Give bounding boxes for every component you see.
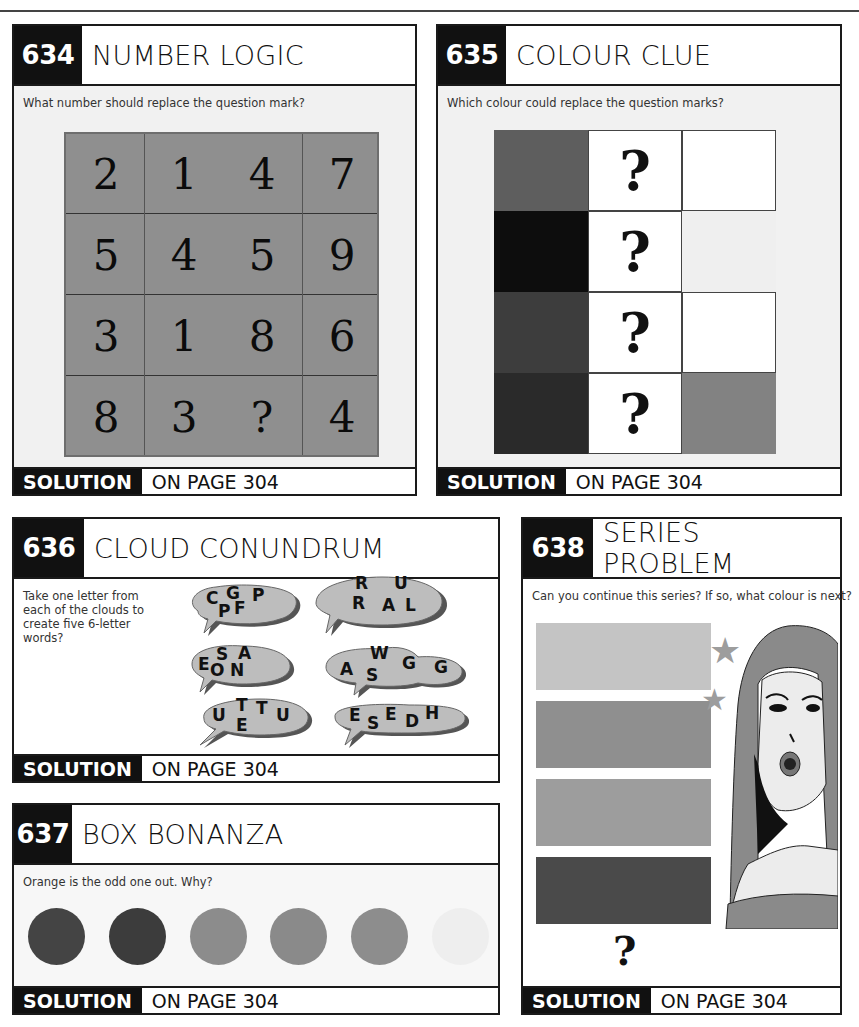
grid-cell: 4	[232, 134, 292, 214]
solution-label: SOLUTION	[14, 756, 142, 781]
colour-swatch	[494, 211, 588, 292]
colour-swatch	[682, 373, 776, 454]
grid-cell: 3	[154, 377, 214, 457]
unknown-swatch: ?	[588, 292, 682, 373]
grid-cell: 6	[312, 296, 372, 376]
colour-circle	[28, 908, 85, 965]
grid-cell: 2	[76, 134, 136, 214]
unknown-swatch: ?	[588, 130, 682, 211]
speech-cloud: R U R A L	[312, 575, 452, 637]
puzzle-prompt: Can you continue this series? If so, wha…	[532, 589, 852, 603]
puzzle-636-panel: 636 CLOUD CONUNDRUM Take one letter from…	[12, 517, 500, 783]
series-bar	[536, 701, 711, 768]
solution-bar: SOLUTION ON PAGE 304	[12, 467, 417, 496]
puzzle-title: CLOUD CONUNDRUM	[84, 519, 385, 577]
number-grid: 2 1 4 7 5 4 5 9 3 1 8 6 8 3 ? 4	[64, 132, 379, 457]
solution-bar: SOLUTION ON PAGE 304	[12, 986, 500, 1015]
page-top-rule	[0, 10, 859, 12]
puzzle-634-header: 634 NUMBER LOGIC	[14, 26, 415, 86]
puzzle-prompt: Take one letter from each of the clouds …	[23, 589, 158, 645]
speech-cloud: E S E D H	[329, 699, 474, 754]
unknown-swatch: ?	[588, 211, 682, 292]
colour-swatch	[682, 130, 776, 211]
solution-bar: SOLUTION ON PAGE 304	[12, 754, 500, 783]
grid-cell: 5	[232, 215, 292, 295]
solution-page: ON PAGE 304	[142, 469, 279, 494]
puzzle-638-panel: 638 SERIES PROBLEM Can you continue this…	[521, 517, 842, 1015]
solution-label: SOLUTION	[14, 988, 142, 1013]
grid-cell: 5	[76, 215, 136, 295]
series-bar	[536, 623, 711, 690]
speech-cloud: E S A O N	[186, 642, 298, 697]
grid-cell: 8	[232, 296, 292, 376]
speech-cloud: U T T U E	[194, 695, 316, 750]
colour-grid: ? ? ? ?	[494, 130, 778, 454]
puzzle-number: 635	[438, 26, 506, 84]
grid-cell: 4	[312, 377, 372, 457]
colour-circle	[351, 908, 408, 965]
grid-cell: 4	[154, 215, 214, 295]
colour-swatch	[494, 130, 588, 211]
puzzle-prompt: Orange is the odd one out. Why?	[23, 875, 213, 889]
puzzle-635-header: 635 COLOUR CLUE	[438, 26, 840, 86]
woman-illustration	[718, 624, 838, 929]
puzzle-number: 634	[14, 26, 82, 84]
solution-bar: SOLUTION ON PAGE 304	[436, 467, 842, 496]
solution-label: SOLUTION	[14, 469, 142, 494]
grid-cell: 8	[76, 377, 136, 457]
colour-swatch	[682, 211, 776, 292]
series-bar	[536, 779, 711, 846]
puzzle-number: 638	[523, 519, 593, 577]
colour-circle	[270, 908, 327, 965]
solution-bar: SOLUTION ON PAGE 304	[521, 986, 842, 1015]
speech-cloud: A W S G G	[322, 643, 470, 698]
solution-page: ON PAGE 304	[566, 469, 703, 494]
solution-label: SOLUTION	[438, 469, 566, 494]
colour-swatch	[494, 292, 588, 373]
colour-circle	[109, 908, 166, 965]
colour-circle	[190, 908, 247, 965]
solution-page: ON PAGE 304	[142, 988, 279, 1013]
grid-cell: 1	[154, 296, 214, 376]
series-bar	[536, 857, 711, 924]
puzzle-title: NUMBER LOGIC	[82, 26, 304, 84]
solution-page: ON PAGE 304	[142, 756, 279, 781]
puzzle-prompt: Which colour could replace the question …	[447, 96, 724, 110]
grid-cell: 3	[76, 296, 136, 376]
puzzle-637-header: 637 BOX BONANZA	[14, 805, 498, 865]
puzzle-title: COLOUR CLUE	[506, 26, 711, 84]
puzzle-638-header: 638 SERIES PROBLEM	[523, 519, 840, 579]
solution-label: SOLUTION	[523, 988, 651, 1013]
puzzle-635-panel: 635 COLOUR CLUE Which colour could repla…	[436, 24, 842, 496]
puzzle-637-panel: 637 BOX BONANZA Orange is the odd one ou…	[12, 803, 500, 1015]
colour-swatch	[494, 373, 588, 454]
grid-cell: 1	[154, 134, 214, 214]
colour-circle	[432, 908, 489, 965]
puzzle-636-header: 636 CLOUD CONUNDRUM	[14, 519, 498, 579]
colour-swatch	[682, 292, 776, 373]
puzzle-title: BOX BONANZA	[72, 805, 283, 863]
solution-page: ON PAGE 304	[651, 988, 788, 1013]
puzzle-number: 637	[14, 805, 72, 863]
puzzle-prompt: What number should replace the question …	[23, 96, 305, 110]
unknown-swatch: ?	[588, 373, 682, 454]
series-next-unknown: ?	[613, 927, 636, 974]
grid-cell-unknown: ?	[232, 377, 292, 457]
grid-cell: 9	[312, 215, 372, 295]
puzzle-634-panel: 634 NUMBER LOGIC What number should repl…	[12, 24, 417, 496]
grid-cell: 7	[312, 134, 372, 214]
puzzle-number: 636	[14, 519, 84, 577]
speech-cloud: C G P P F	[186, 581, 301, 636]
puzzle-title: SERIES PROBLEM	[593, 519, 840, 577]
